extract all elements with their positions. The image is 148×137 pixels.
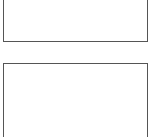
empty-panel-bottom (3, 63, 148, 137)
empty-panel-top (3, 0, 148, 42)
